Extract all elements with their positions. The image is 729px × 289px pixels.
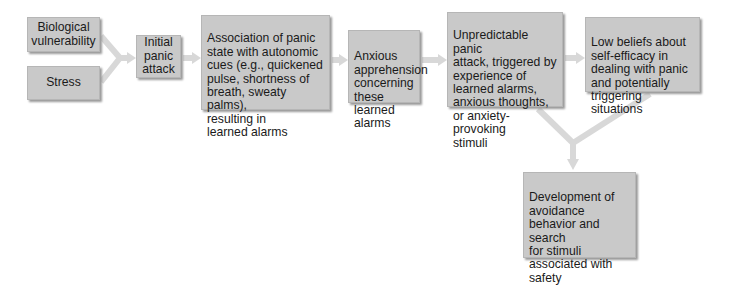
node-label: Development of avoidance behavior and se… xyxy=(529,191,630,285)
arrowhead-initial xyxy=(127,52,136,64)
node-label: Unpredictable panic attack, triggered by… xyxy=(453,29,557,150)
node-label: Initial panic attack xyxy=(142,36,175,76)
node-low-self-efficacy: Low beliefs about self-efficacy in deali… xyxy=(585,17,700,92)
node-stress: Stress xyxy=(27,66,100,100)
arrowhead-association xyxy=(192,52,201,64)
node-label: Association of panic state with autonomi… xyxy=(207,32,324,139)
node-anxious-apprehension: Anxious apprehension concerning these le… xyxy=(348,30,420,103)
node-association: Association of panic state with autonomi… xyxy=(201,15,330,110)
node-initial-panic-attack: Initial panic attack xyxy=(136,35,181,78)
arrowhead-unpredictable xyxy=(438,54,447,66)
node-label: Low beliefs about self-efficacy in deali… xyxy=(591,36,694,116)
node-unpredictable-panic-attack: Unpredictable panic attack, triggered by… xyxy=(447,12,563,107)
node-avoidance-behavior: Development of avoidance behavior and se… xyxy=(523,172,636,258)
arrowhead-development xyxy=(567,159,579,170)
arrowhead-anxious xyxy=(339,54,348,66)
node-label: Stress xyxy=(46,76,81,89)
node-label: Anxious apprehension concerning these le… xyxy=(354,50,414,130)
node-label: Biological vulnerability xyxy=(31,21,95,48)
node-biological-vulnerability: Biological vulnerability xyxy=(27,17,100,52)
arrowhead-low-beliefs xyxy=(576,52,585,64)
